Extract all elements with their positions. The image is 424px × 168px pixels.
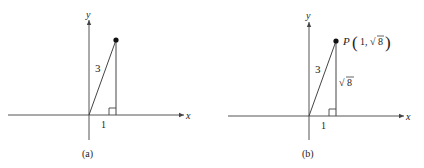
base-label: 1 [321,120,326,131]
point-y-radicand: 8 [378,36,383,47]
figure: y x 3 1 (a) y x 3 1 √ 8 P ( 1, √ 8 ) [0,0,424,168]
panel-b: y x 3 1 √ 8 P ( 1, √ 8 ) (b) [228,10,411,160]
point [113,37,118,42]
hypotenuse [309,41,336,116]
radicand: 8 [347,77,352,88]
point-p [333,38,338,43]
x-axis-label: x [405,111,411,122]
hypotenuse [89,40,116,115]
vertical-leg-label: √ 8 [339,77,354,88]
hypotenuse-label: 3 [315,63,321,75]
point-name: P [342,35,350,47]
point-x-coordinate: 1, [360,36,368,47]
hypotenuse-label: 3 [95,62,101,74]
point-radical-sign: √ [370,36,376,47]
panel-a: y x 3 1 (a) [8,9,191,160]
caption: (b) [302,148,314,160]
right-angle-mark [109,108,116,115]
open-paren: ( [352,33,358,52]
point-p-label: P ( 1, √ 8 ) [342,33,391,52]
close-paren: ) [385,33,391,52]
right-angle-mark [329,109,336,116]
y-axis-label: y [305,10,311,21]
radical-sign: √ [339,77,345,88]
caption: (a) [82,148,93,160]
base-label: 1 [101,119,106,130]
y-axis-label: y [85,9,91,20]
x-axis-label: x [185,110,191,121]
